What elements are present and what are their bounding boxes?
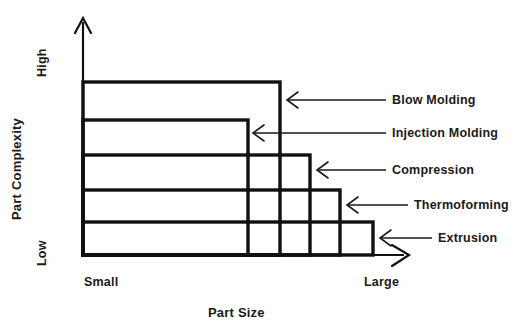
leader-injection-molding [253,125,386,141]
label-injection-molding: Injection Molding [392,126,498,140]
leader-compression [317,162,386,178]
x-axis-label-large: Large [364,275,399,289]
leader-thermoforming [347,197,408,213]
label-extrusion: Extrusion [438,231,497,245]
region-compression-rect [83,155,310,255]
x-axis-label-small: Small [84,275,118,289]
y-axis-label-low: Low [35,240,49,266]
label-compression: Compression [392,163,474,177]
region-extrusion-rect [83,222,373,255]
region-blow-molding-rect [83,82,280,255]
x-axis-title: Part Size [208,305,265,320]
process-capability-diagram: Blow Molding Injection Molding Compressi… [0,0,519,333]
y-axis-title: Part Complexity [9,118,24,220]
leader-extrusion [380,230,432,246]
region-injection-molding-rect [83,120,248,255]
label-blow-molding: Blow Molding [392,93,476,107]
label-thermoforming: Thermoforming [414,198,509,212]
y-axis-label-high: High [35,48,49,77]
leader-blow-molding [287,92,386,108]
